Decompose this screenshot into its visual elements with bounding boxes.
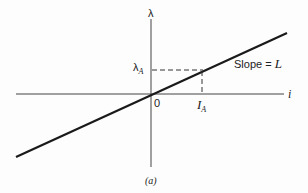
slope-annotation: Slope = L: [234, 57, 282, 70]
lambda-a-subscript: A: [139, 67, 144, 76]
x-axis-label: i: [288, 88, 291, 100]
lambda-a-label: λA: [133, 62, 143, 76]
i-a-subscript: A: [201, 105, 206, 114]
figure-caption: (a): [145, 176, 157, 186]
flux-current-diagram: λ i 0 λA IA Slope = L (a): [0, 0, 308, 193]
y-axis-label: λ: [148, 8, 154, 19]
i-a-label: IA: [197, 98, 206, 114]
slope-prefix: Slope =: [234, 58, 275, 70]
slope-symbol: L: [275, 56, 282, 71]
origin-label: 0: [154, 98, 160, 109]
